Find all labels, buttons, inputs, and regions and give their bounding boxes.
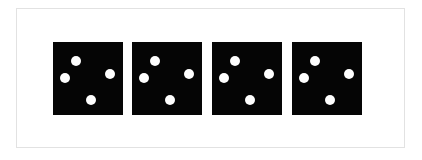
dice-row bbox=[17, 9, 404, 147]
pip-mid-right bbox=[344, 69, 354, 79]
pip-mid-right bbox=[184, 69, 194, 79]
die-3[interactable] bbox=[212, 42, 282, 115]
pip-mid-left bbox=[219, 73, 229, 83]
pip-mid-right bbox=[264, 69, 274, 79]
die-1[interactable] bbox=[53, 42, 123, 115]
pip-mid-left bbox=[139, 73, 149, 83]
pip-lower-mid bbox=[325, 95, 335, 105]
pip-upper-left bbox=[150, 56, 160, 66]
pip-mid-left bbox=[60, 73, 70, 83]
pip-upper-left bbox=[71, 56, 81, 66]
pip-upper-left bbox=[310, 56, 320, 66]
pip-lower-mid bbox=[86, 95, 96, 105]
pip-mid-right bbox=[105, 69, 115, 79]
die-4[interactable] bbox=[292, 42, 362, 115]
pip-upper-left bbox=[230, 56, 240, 66]
pip-lower-mid bbox=[165, 95, 175, 105]
die-2[interactable] bbox=[132, 42, 202, 115]
scene-canvas bbox=[0, 0, 422, 160]
pip-mid-left bbox=[299, 73, 309, 83]
image-frame bbox=[16, 8, 405, 148]
pip-lower-mid bbox=[245, 95, 255, 105]
